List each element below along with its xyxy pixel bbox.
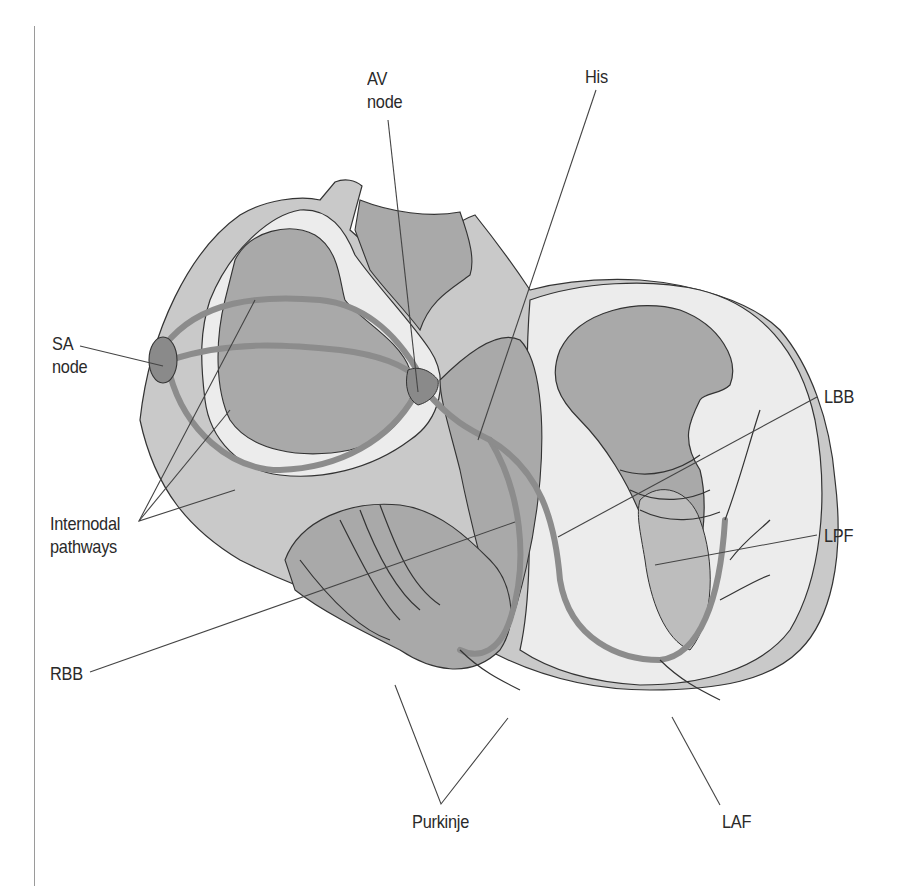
label-sa-node-line2: node <box>52 355 87 378</box>
label-internodal-line1: Internodal <box>50 512 120 535</box>
label-purkinje: Purkinje <box>412 810 469 833</box>
leader-laf <box>672 717 720 805</box>
label-internodal-line2: pathways <box>50 535 120 558</box>
heart-conduction-diagram <box>0 0 908 886</box>
label-lpf: LPF <box>824 524 853 547</box>
label-lbb: LBB <box>824 385 854 408</box>
label-rbb: RBB <box>50 662 83 685</box>
label-av-node-line2: node <box>367 90 402 113</box>
label-av-node: AV node <box>367 67 402 113</box>
label-sa-node-line1: SA <box>52 332 87 355</box>
label-sa-node: SA node <box>52 332 87 378</box>
label-laf: LAF <box>722 810 751 833</box>
label-internodal-pathways: Internodal pathways <box>50 512 120 558</box>
sa-node <box>149 337 177 383</box>
leader-purkinje <box>395 685 508 804</box>
label-av-node-line1: AV <box>367 67 402 90</box>
label-his: His <box>585 65 608 88</box>
